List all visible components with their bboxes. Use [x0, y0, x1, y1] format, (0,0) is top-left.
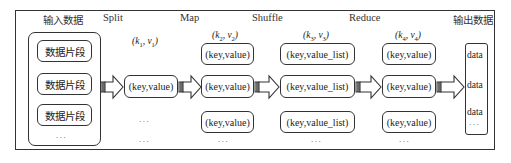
- map-key-value-box: (key,value): [201, 75, 254, 98]
- output-data-item: data: [467, 50, 483, 60]
- arrow-right-icon: [436, 75, 466, 99]
- header-shuffle: Shuffle: [252, 12, 283, 23]
- reduce-key-value-box: (key,value): [382, 75, 436, 98]
- arrow-right-icon: [254, 75, 281, 99]
- arrow-right-icon: [355, 75, 383, 99]
- header-split: Split: [103, 12, 123, 23]
- header-map: Map: [180, 12, 199, 23]
- map-ellipsis: ...: [218, 134, 229, 144]
- pair-label-k1-v1: (k1, v1): [132, 36, 158, 48]
- output-data-item: data: [467, 107, 483, 117]
- output-ellipsis: ...: [469, 117, 480, 127]
- map-key-value-box: (key,value): [201, 111, 254, 133]
- reduce-ellipsis: ...: [399, 134, 410, 144]
- pair-label-k3-v3: (k3, v3): [303, 30, 329, 42]
- pair-label-k2-v2: (k2, v2): [212, 30, 238, 42]
- reduce-key-value-box: (key,value): [382, 43, 436, 65]
- shuffle-key-value-list-box: (key,value_list): [280, 111, 355, 133]
- shuffle-key-value-list-box: (key,value_list): [280, 75, 355, 98]
- output-data-item: data: [467, 80, 483, 90]
- pair-label-k4-v4: (k4, v4): [395, 30, 421, 42]
- data-fragment-box: 数据片段: [37, 73, 92, 95]
- header-reduce: Reduce: [349, 12, 381, 23]
- split-ellipsis: ...: [139, 114, 150, 124]
- reduce-key-value-box: (key,value): [382, 111, 436, 133]
- data-fragment-box: 数据片段: [37, 104, 92, 126]
- input-ellipsis: ...: [56, 130, 67, 140]
- data-fragment-box: 数据片段: [37, 40, 92, 62]
- shuffle-ellipsis: ...: [311, 134, 322, 144]
- map-key-value-box: (key,value): [201, 43, 254, 65]
- shuffle-key-value-list-box: (key,value_list): [280, 43, 355, 65]
- header-input-data: 输入数据: [43, 12, 83, 27]
- arrow-right-icon: [100, 75, 125, 99]
- arrow-right-icon: [178, 75, 203, 99]
- header-output-data: 输出数据: [453, 12, 493, 27]
- split-ellipsis-bottom: ...: [139, 134, 150, 144]
- split-key-value-box: (key,value): [124, 75, 178, 98]
